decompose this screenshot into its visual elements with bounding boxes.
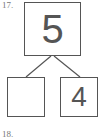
connector-left-line (26, 56, 51, 77)
whole-box: 5 (24, 2, 81, 56)
part-right-box: 4 (60, 77, 98, 117)
whole-value: 5 (41, 7, 63, 52)
part-right-value: 4 (71, 81, 87, 113)
connector-right-line (54, 56, 80, 77)
part-left-box[interactable] (7, 77, 45, 117)
next-problem-number: 18. (2, 129, 13, 139)
